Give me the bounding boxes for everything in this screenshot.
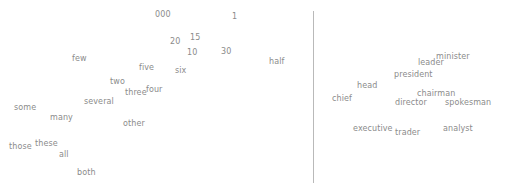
scatter-panel-quantifier-words [0,0,313,190]
scatter-word-label: 20 [170,37,180,46]
scatter-word-label: both [77,168,96,177]
scatter-word-label: few [72,54,87,63]
scatter-word-label: 10 [187,48,197,57]
scatter-word-label: 30 [221,47,231,56]
scatter-word-label: 000 [155,10,171,19]
scatter-word-label: chief [332,94,352,103]
scatter-word-label: president [394,70,433,79]
scatter-word-label: two [110,77,125,86]
word-embedding-scatter-figure: 000120151030fewhalffivesixtwofourthreese… [0,0,505,190]
scatter-word-label: chairman [417,89,455,98]
scatter-word-label: several [84,97,114,106]
scatter-word-label: five [139,63,154,72]
scatter-word-label: other [123,119,145,128]
scatter-word-label: 15 [190,33,200,42]
scatter-word-label: many [50,113,73,122]
scatter-word-label: these [35,139,58,148]
scatter-word-label: 1 [232,12,237,21]
scatter-word-label: four [146,85,162,94]
scatter-word-label: director [395,98,427,107]
scatter-word-label: three [125,88,147,97]
scatter-word-label: some [14,103,36,112]
scatter-word-label: those [9,142,32,151]
scatter-word-label: head [357,81,377,90]
scatter-word-label: six [175,66,186,75]
scatter-word-label: executive [353,124,393,133]
scatter-word-label: trader [395,128,420,137]
scatter-word-label: analyst [443,124,473,133]
scatter-word-label: half [269,57,284,66]
scatter-word-label: spokesman [445,98,491,107]
scatter-word-label: leader [418,58,444,67]
scatter-word-label: all [59,150,69,159]
